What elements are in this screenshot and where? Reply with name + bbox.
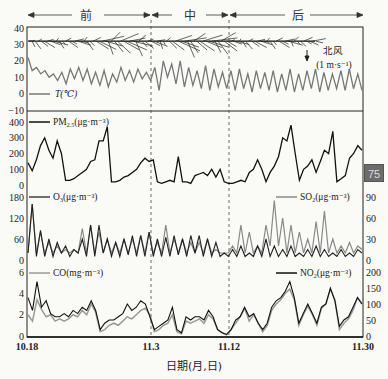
- pm25-y-ticks: 4003002001000: [9, 117, 24, 191]
- tick-label: 0: [366, 331, 371, 342]
- so2-y-ticks: 9060300: [366, 192, 376, 266]
- tick-label: 60: [366, 213, 376, 224]
- tick-label: 0: [19, 180, 24, 191]
- x-tick-10-18: 10.18: [16, 341, 39, 352]
- x-tick-11-12: 11.12: [218, 341, 240, 352]
- tick-label: 150: [366, 283, 381, 294]
- tick-label: 0: [19, 255, 24, 266]
- so2-line: [28, 201, 362, 254]
- o3-y-ticks: 180120600: [9, 192, 24, 266]
- tick-label: 90: [366, 192, 376, 203]
- period-label-mid: 中: [184, 8, 196, 23]
- plot-frame: [27, 27, 363, 337]
- temperature-line: [28, 58, 362, 93]
- o3-legend-label: O3(μg·m⁻³): [53, 192, 97, 203]
- tick-label: 60: [14, 234, 24, 245]
- tick-label: 50: [366, 315, 376, 326]
- x-axis-title: 日期(月,日): [166, 360, 222, 373]
- wind-scale-arrow-icon: [305, 50, 309, 61]
- page-badge: 75: [364, 164, 384, 182]
- tick-label: 300: [9, 132, 24, 143]
- tick-label: 6: [19, 267, 24, 278]
- wind-scale-label: (1 m·s⁻¹): [316, 60, 352, 71]
- tick-label: 200: [366, 267, 381, 278]
- tick-label: −10: [8, 105, 24, 116]
- tick-label: 100: [366, 299, 381, 310]
- tick-label: 2: [19, 309, 24, 320]
- tick-label: 30: [366, 234, 376, 245]
- tick-label: 0: [19, 331, 24, 342]
- tick-label: 0: [366, 255, 371, 266]
- pm25-line: [28, 125, 362, 183]
- co-legend-label: CO(mg·m⁻³): [53, 268, 103, 279]
- air-quality-chart: 前 中 后 403020100−10 4003002001000 1801206…: [0, 0, 388, 379]
- tick-label: 40: [14, 23, 24, 34]
- pm25-legend-label: PM2.5(μg·m⁻³): [53, 117, 109, 128]
- temperature-y-ticks: 403020100−10: [8, 23, 24, 116]
- period-label-before: 前: [80, 8, 92, 23]
- tick-label: 400: [9, 117, 24, 128]
- wind-vectors: [28, 32, 326, 57]
- tick-label: 200: [9, 148, 24, 159]
- no2-legend-label: NO2(μg·m⁻³): [300, 268, 351, 279]
- tick-label: 30: [14, 39, 24, 50]
- wind-direction-label: 北风: [323, 46, 343, 56]
- x-tick-11-3: 11.3: [143, 341, 160, 352]
- period-label-after: 后: [292, 9, 304, 23]
- tick-label: 4: [19, 288, 24, 299]
- tick-label: 0: [19, 88, 24, 99]
- no2-y-ticks: 200150100500: [366, 267, 381, 342]
- tick-label: 100: [9, 164, 24, 175]
- tick-label: 180: [9, 192, 24, 203]
- tick-label: 10: [14, 72, 24, 83]
- co-y-ticks: 6420: [19, 267, 24, 342]
- so2-legend-label: SO2(μg·m⁻³): [300, 192, 350, 203]
- x-tick-11-30: 11.30: [352, 341, 374, 352]
- tick-label: 120: [9, 213, 24, 224]
- tick-label: 20: [14, 55, 24, 66]
- temp-legend-label: T(℃): [55, 89, 77, 100]
- no2-line: [28, 282, 362, 335]
